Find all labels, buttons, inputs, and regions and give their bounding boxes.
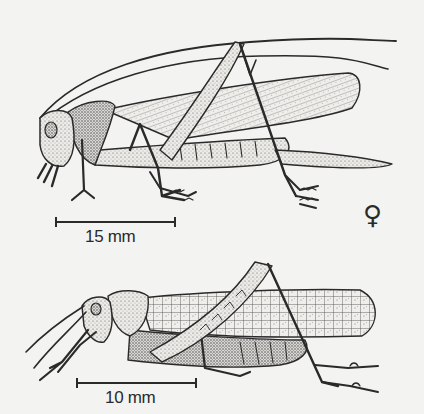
female-symbol: ♀ — [363, 202, 382, 228]
antenna — [34, 312, 86, 368]
upper-insect — [38, 39, 396, 208]
compound-eye — [45, 122, 57, 138]
scale-bar-15mm — [56, 217, 175, 227]
insect-drawings — [0, 0, 424, 414]
ovipositor — [275, 150, 392, 168]
pronotum — [108, 291, 148, 336]
scientific-illustration: 15 mm ♀ 10 mm — [0, 0, 424, 414]
scale-bar-label-lower: 10 mm — [105, 388, 155, 408]
head — [40, 111, 74, 167]
abdomen — [95, 138, 289, 168]
forewing — [140, 289, 375, 337]
compound-eye — [91, 303, 101, 315]
scale-bar-label-upper: 15 mm — [85, 227, 135, 247]
lower-insect — [26, 262, 378, 392]
scale-bar-10mm — [77, 378, 196, 388]
